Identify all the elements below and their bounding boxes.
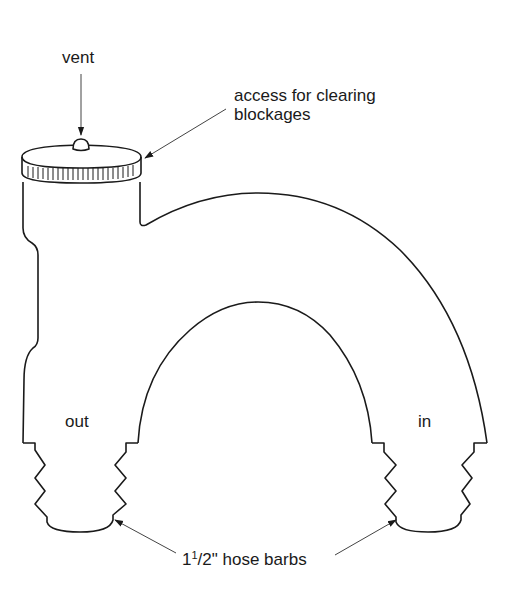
inner-arch	[138, 302, 372, 443]
access-cap	[22, 139, 141, 183]
leader-lines	[81, 74, 396, 555]
out-hose-barb	[23, 443, 138, 532]
trap-body	[22, 139, 487, 532]
in-hose-barb	[372, 443, 487, 532]
hose-barbs-label: 11/2" hose barbs	[182, 545, 307, 570]
access-label-line1: access for clearing	[234, 86, 376, 106]
out-barb-leader	[115, 520, 176, 553]
vent-bump	[73, 139, 89, 151]
access-leader	[145, 109, 226, 158]
access-label-line2: blockages	[234, 105, 311, 125]
out-label: out	[65, 412, 89, 432]
outer-arch	[140, 182, 487, 443]
vent-label: vent	[62, 48, 94, 68]
hose-barbs-rest: /2" hose barbs	[198, 550, 307, 569]
in-barb-leader	[335, 520, 396, 555]
left-pipe-outer-edge	[23, 182, 38, 443]
in-label: in	[418, 412, 431, 432]
